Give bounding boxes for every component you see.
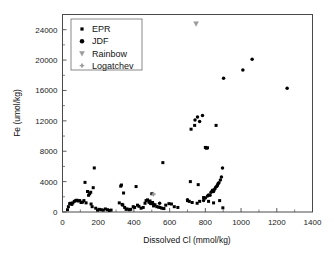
- data-point: [198, 120, 202, 124]
- data-point: [120, 184, 123, 187]
- data-point: [212, 201, 215, 204]
- scatter-plot-figure: 04000800012000160002000024000 0200400600…: [0, 0, 334, 260]
- data-point: [219, 178, 223, 182]
- x-tick-label: 1400: [304, 218, 322, 227]
- data-point: [189, 180, 192, 183]
- y-axis-title: Fe (umol/kg): [12, 89, 22, 137]
- data-point: [122, 192, 125, 195]
- chart-legend: EPRJDFRainbowLogatchev: [71, 19, 142, 71]
- data-point: [89, 191, 92, 194]
- data-point: [170, 203, 173, 206]
- x-tick-label: 0: [60, 218, 65, 227]
- data-point: [198, 200, 201, 203]
- legend-label-rainbow: Rainbow: [92, 49, 128, 59]
- data-point: [191, 201, 194, 204]
- data-point: [85, 201, 88, 204]
- y-tick-label: 20000: [35, 56, 58, 65]
- data-point: [196, 115, 200, 119]
- data-point: [221, 206, 224, 209]
- data-point: [135, 185, 138, 188]
- data-point: [110, 209, 113, 212]
- legend-marker-epr: [80, 27, 83, 30]
- x-tick-label: 1200: [268, 218, 286, 227]
- data-point: [221, 166, 225, 170]
- data-point: [118, 201, 121, 204]
- data-point: [206, 146, 209, 149]
- data-point: [164, 204, 167, 207]
- data-point: [220, 175, 224, 179]
- data-point: [133, 206, 136, 209]
- data-point: [158, 202, 162, 206]
- data-point: [151, 202, 155, 206]
- data-point: [129, 208, 132, 211]
- data-point: [144, 202, 147, 205]
- data-point: [186, 198, 190, 202]
- data-point: [162, 207, 165, 210]
- data-point: [207, 200, 210, 203]
- data-point: [66, 208, 69, 211]
- legend-label-logatchev: Logatchev: [92, 61, 134, 71]
- data-point: [90, 203, 93, 206]
- y-tick-label: 0: [53, 208, 58, 217]
- data-point: [91, 205, 94, 208]
- x-axis-title: Dissolved Cl (mmol/kg): [143, 235, 231, 245]
- data-point: [197, 183, 200, 186]
- data-point: [193, 118, 197, 122]
- data-point: [84, 181, 87, 184]
- x-tick-label: 600: [163, 218, 177, 227]
- data-point: [222, 77, 226, 81]
- data-point: [173, 205, 176, 208]
- y-tick-label: 24000: [35, 26, 58, 35]
- legend-marker-jdf: [80, 39, 85, 44]
- data-point: [193, 124, 196, 127]
- data-point: [67, 205, 70, 208]
- y-tick-label: 4000: [40, 178, 58, 187]
- data-point: [208, 194, 212, 198]
- data-point: [218, 199, 221, 202]
- data-point: [285, 86, 289, 90]
- legend-label-jdf: JDF: [92, 36, 109, 46]
- data-point: [215, 124, 218, 127]
- x-tick-label: 200: [92, 218, 106, 227]
- legend-label-epr: EPR: [92, 24, 111, 34]
- data-point: [250, 58, 254, 62]
- data-point: [176, 206, 179, 209]
- data-point: [161, 161, 164, 164]
- data-point: [241, 68, 245, 72]
- y-tick-label: 8000: [40, 147, 58, 156]
- x-tick-label: 400: [127, 218, 141, 227]
- data-point: [190, 128, 193, 131]
- x-tick-label: 800: [199, 218, 213, 227]
- x-tick-label: 1000: [232, 218, 250, 227]
- data-point: [142, 206, 145, 209]
- data-point: [93, 166, 96, 169]
- data-point: [201, 114, 205, 118]
- chart-canvas: 04000800012000160002000024000 0200400600…: [0, 0, 334, 260]
- y-tick-label: 16000: [35, 86, 58, 95]
- data-point: [92, 186, 95, 189]
- y-tick-label: 12000: [35, 117, 58, 126]
